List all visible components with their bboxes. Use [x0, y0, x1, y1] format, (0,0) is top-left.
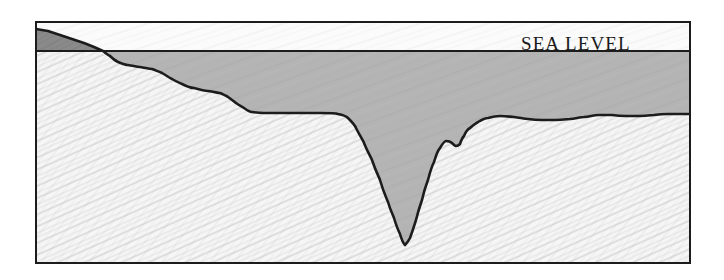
ocean-cross-section-figure: SEA LEVEL: [0, 0, 724, 280]
sea-level-label: SEA LEVEL: [521, 33, 631, 54]
cross-section-diagram: SEA LEVEL: [0, 0, 724, 280]
